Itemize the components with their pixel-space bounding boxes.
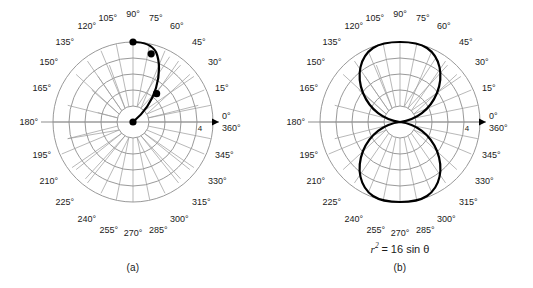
- angle-label-105: 105°: [365, 13, 384, 23]
- angle-label-30: 30°: [208, 57, 222, 67]
- angle-label-150: 150°: [306, 57, 325, 67]
- panel-b: 4 0° 360° 15° 30° 45° 60° 75° 90° 105° 1…: [267, 0, 533, 288]
- equation-exponent: 2: [375, 241, 379, 250]
- angle-label-150: 150°: [39, 57, 58, 67]
- angle-label-210: 210°: [306, 176, 325, 186]
- angle-label-180: 180°: [286, 117, 305, 127]
- angle-label-180: 180°: [19, 117, 38, 127]
- angle-label-30: 30°: [475, 57, 489, 67]
- polar-chart-b: 4 0° 360° 15° 30° 45° 60° 75° 90° 105° 1…: [267, 0, 533, 236]
- data-point-60deg: [148, 50, 155, 57]
- angle-label-345: 345°: [215, 150, 234, 160]
- angle-label-345: 345°: [482, 150, 501, 160]
- caption-b: (b): [267, 262, 533, 273]
- data-point-90deg: [129, 38, 136, 45]
- angle-label-270: 270°: [124, 228, 143, 238]
- angle-label-330: 330°: [208, 176, 227, 186]
- angle-label-210: 210°: [39, 176, 58, 186]
- radial-tick-label-4: 4: [198, 124, 203, 133]
- axis-arrow-head: [212, 119, 219, 126]
- angle-label-105: 105°: [98, 13, 117, 23]
- polar-plot-figure: 4 0° 360° 15° 30° 45° 60° 75° 90° 105° 1…: [0, 0, 533, 288]
- data-point-30deg: [153, 90, 160, 97]
- angle-label-225: 225°: [322, 197, 341, 207]
- angle-label-60: 60°: [170, 21, 184, 31]
- angle-label-75: 75°: [149, 13, 163, 23]
- angle-label-240: 240°: [344, 214, 363, 224]
- data-point-origin: [129, 118, 136, 125]
- angle-label-120: 120°: [344, 21, 363, 31]
- angle-label-0: 0°: [489, 111, 498, 121]
- angle-label-300: 300°: [170, 214, 189, 224]
- angle-label-300: 300°: [437, 214, 456, 224]
- angle-label-135: 135°: [55, 37, 74, 47]
- angle-label-15: 15°: [482, 83, 496, 93]
- angle-label-330: 330°: [475, 176, 494, 186]
- angle-label-60: 60°: [437, 21, 451, 31]
- angle-label-75: 75°: [416, 13, 430, 23]
- angle-label-285: 285°: [416, 225, 435, 235]
- angle-label-120: 120°: [77, 21, 96, 31]
- curve-lemniscate-half-a: [133, 42, 159, 122]
- angle-label-315: 315°: [459, 197, 478, 207]
- angle-label-0: 0°: [222, 111, 231, 121]
- angle-label-270: 270°: [391, 228, 410, 236]
- angle-label-90: 90°: [393, 9, 407, 19]
- angle-label-195: 195°: [299, 150, 318, 160]
- angle-label-165: 165°: [32, 83, 51, 93]
- angle-label-255: 255°: [99, 225, 118, 235]
- equation-rest: = 16 sin θ: [381, 243, 429, 255]
- angle-label-360: 360°: [489, 123, 508, 133]
- angle-label-225: 225°: [55, 197, 74, 207]
- polar-chart-a: 4 0° 360° 15° 30° 45° 60° 75° 90° 105° 1…: [0, 0, 266, 250]
- angle-label-255: 255°: [366, 225, 385, 235]
- panel-a: 4 0° 360° 15° 30° 45° 60° 75° 90° 105° 1…: [0, 0, 266, 288]
- caption-a: (a): [0, 262, 266, 273]
- angle-label-135: 135°: [322, 37, 341, 47]
- angle-label-195: 195°: [32, 150, 51, 160]
- equation-label-b: r2 = 16 sin θ: [267, 241, 533, 255]
- angle-label-45: 45°: [192, 37, 206, 47]
- angle-label-315: 315°: [192, 197, 211, 207]
- angle-label-15: 15°: [215, 83, 229, 93]
- angle-label-165: 165°: [299, 83, 318, 93]
- angle-label-45: 45°: [459, 37, 473, 47]
- radial-tick-label-4: 4: [465, 124, 470, 133]
- angle-label-240: 240°: [77, 214, 96, 224]
- angle-label-285: 285°: [149, 225, 168, 235]
- angle-label-360: 360°: [222, 123, 241, 133]
- axis-arrow-head: [479, 119, 486, 126]
- angle-label-90: 90°: [126, 9, 140, 19]
